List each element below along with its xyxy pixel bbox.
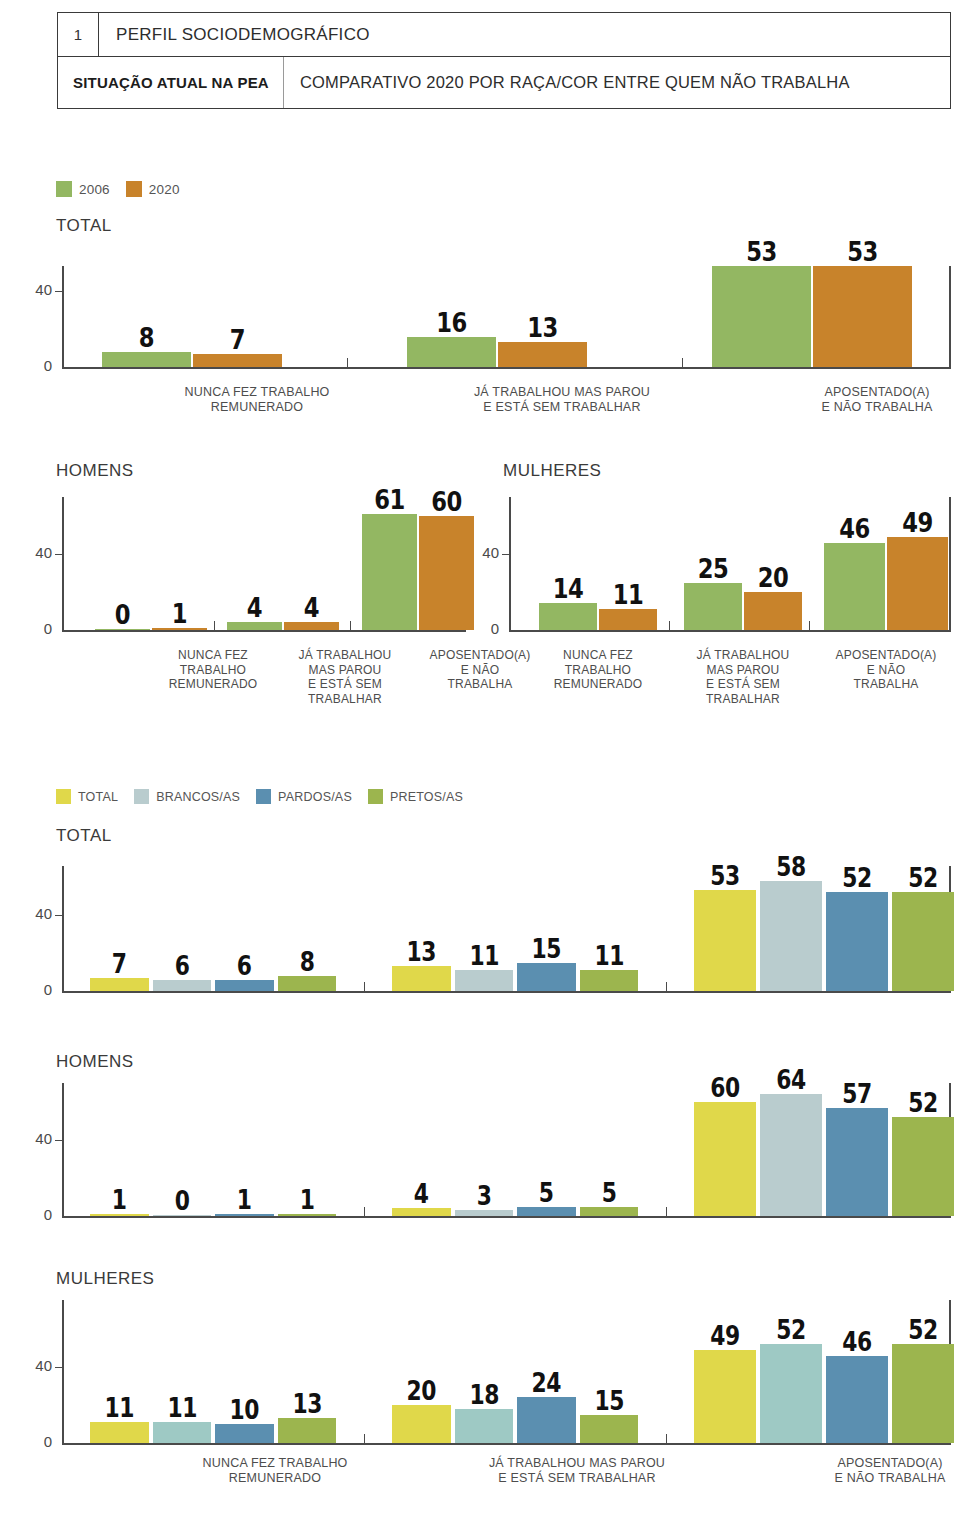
bar-value-label: 11 [454, 941, 513, 971]
bar[interactable] [826, 1356, 888, 1443]
bar[interactable] [580, 970, 639, 991]
bar-value-label: 4 [283, 592, 339, 623]
bar[interactable] [392, 966, 451, 991]
bar-value-label: 1 [215, 1185, 274, 1215]
bar-value-label: 11 [152, 1393, 211, 1423]
bar[interactable] [407, 337, 496, 367]
bar[interactable] [760, 1344, 822, 1443]
legend-race: TOTALBRANCOS/ASPARDOS/ASPRETOS/AS [56, 789, 463, 804]
category-label: APOSENTADO(A)E NÃO TRABALHA [780, 1456, 969, 1486]
category-label: NUNCA FEZ TRABALHOREMUNERADO [147, 385, 367, 415]
panel-title-mulheres-year: MULHERES [503, 461, 601, 481]
y-axis-line [62, 1083, 64, 1216]
bar[interactable] [892, 1344, 954, 1443]
bar[interactable] [694, 1102, 756, 1216]
category-label-line: REMUNERADO [147, 400, 367, 415]
bar-value-label: 13 [500, 312, 585, 343]
bar[interactable] [284, 622, 339, 630]
bar[interactable] [824, 543, 885, 630]
category-label: JÁ TRABALHOU MAS PAROUE ESTÁ SEM TRABALH… [452, 385, 672, 415]
bar[interactable] [498, 342, 587, 367]
x-axis-line [62, 630, 466, 632]
bar[interactable] [455, 970, 514, 991]
x-axis-line [62, 1216, 951, 1218]
bar[interactable] [892, 1117, 954, 1216]
category-label-line: E ESTÁ SEM TRABALHAR [452, 400, 672, 415]
bar[interactable] [580, 1415, 639, 1444]
bar[interactable] [215, 980, 274, 991]
bar[interactable] [193, 354, 282, 367]
category-label-line: APOSENTADO(A) [776, 648, 969, 663]
x-axis-line [62, 367, 951, 369]
bar-value-label: 5 [517, 1178, 576, 1208]
legend-label: TOTAL [78, 790, 118, 804]
panel-title-total-year: TOTAL [56, 216, 112, 236]
group-separator-tick [666, 982, 667, 991]
bar[interactable] [517, 963, 576, 992]
bar[interactable] [684, 583, 742, 631]
bar[interactable] [278, 1418, 337, 1443]
legend-swatch-icon [56, 789, 71, 804]
bar[interactable] [455, 1409, 514, 1443]
legend-race-item-0[interactable]: TOTAL [56, 789, 118, 804]
chart-mulheres-year: 400141125204649 [509, 497, 951, 630]
right-axis-line [949, 497, 951, 632]
legend-swatch-icon [368, 789, 383, 804]
bar[interactable] [102, 352, 191, 367]
bar[interactable] [278, 976, 337, 991]
bar[interactable] [90, 978, 149, 991]
bar[interactable] [580, 1207, 639, 1217]
bar[interactable] [599, 609, 657, 630]
group-separator-tick [666, 1207, 667, 1216]
bar[interactable] [887, 537, 948, 630]
section-title: PERFIL SOCIODEMOGRÁFICO [99, 13, 950, 56]
bar[interactable] [517, 1207, 576, 1217]
bar-value-label: 53 [816, 236, 909, 267]
category-label-line: JÁ TRABALHOU MAS PAROU [452, 385, 672, 400]
panel-title-total-race: TOTAL [56, 826, 112, 846]
legend-year-item-1[interactable]: 2020 [126, 181, 180, 197]
chart-total-year: 4008716135353 [62, 266, 951, 367]
bar[interactable] [694, 1350, 756, 1443]
bar[interactable] [760, 881, 822, 991]
legend-year: 20062020 [56, 181, 180, 197]
bar[interactable] [153, 980, 212, 991]
bar[interactable] [826, 1108, 888, 1216]
bar[interactable] [813, 266, 912, 367]
bar-value-label: 16 [409, 307, 494, 338]
bar[interactable] [227, 622, 282, 630]
bar[interactable] [392, 1405, 451, 1443]
bar-value-label: 46 [824, 513, 885, 544]
group-separator-tick [214, 621, 215, 630]
panel-title-homens-year: HOMENS [56, 461, 134, 481]
bar[interactable] [419, 516, 474, 630]
bar-value-label: 52 [760, 1315, 822, 1345]
bar[interactable] [826, 892, 888, 991]
group-separator-tick [809, 621, 810, 630]
y-axis-tick-label: 0 [18, 1206, 52, 1223]
legend-race-item-1[interactable]: BRANCOS/AS [134, 789, 240, 804]
bar[interactable] [760, 1094, 822, 1216]
bar[interactable] [215, 1424, 274, 1443]
bar-value-label: 49 [887, 507, 948, 538]
bar-value-label: 20 [744, 562, 803, 593]
bar[interactable] [153, 1422, 212, 1443]
bar[interactable] [362, 514, 417, 630]
bar-value-label: 11 [579, 941, 638, 971]
bar[interactable] [539, 603, 597, 630]
legend-year-item-0[interactable]: 2006 [56, 181, 110, 197]
bar[interactable] [392, 1208, 451, 1216]
legend-race-item-3[interactable]: PRETOS/AS [368, 789, 463, 804]
bar[interactable] [892, 892, 954, 991]
bar[interactable] [712, 266, 811, 367]
bar[interactable] [517, 1397, 576, 1443]
subject-description: COMPARATIVO 2020 POR RAÇA/COR ENTRE QUEM… [284, 57, 950, 108]
group-separator-tick [350, 621, 351, 630]
legend-race-item-2[interactable]: PARDOS/AS [256, 789, 352, 804]
category-label-line: TRABALHA [776, 677, 969, 692]
bar[interactable] [90, 1422, 149, 1443]
header-section-row: 1 PERFIL SOCIODEMOGRÁFICO [57, 12, 951, 56]
page-header: 1 PERFIL SOCIODEMOGRÁFICO SITUAÇÃO ATUAL… [57, 12, 951, 109]
bar[interactable] [694, 890, 756, 991]
bar[interactable] [744, 592, 802, 630]
